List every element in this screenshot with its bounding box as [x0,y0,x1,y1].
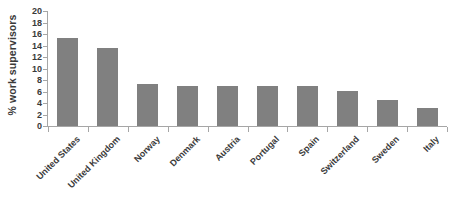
bar [97,48,118,126]
y-axis-title-label: % work supervisors [5,14,17,115]
y-axis-tick-label: 12 [32,53,42,62]
x-axis-tick-mark [208,127,209,132]
bar [377,100,398,126]
bar [217,86,238,126]
y-axis-tick-mark [43,46,47,47]
y-axis-tick-label: 10 [32,64,42,73]
x-axis-tick-mark [128,127,129,132]
y-axis-tick-mark [43,103,47,104]
bar [337,91,358,126]
y-axis-tick-label: 14 [32,41,42,50]
x-axis-category-labels: United StatesUnited KingdomNorwayDenmark… [0,128,460,215]
x-axis-tick-mark [287,127,288,132]
x-axis-line [47,126,447,127]
bar [297,86,318,126]
x-axis-tick-mark [367,127,368,132]
y-axis-tick-mark [43,80,47,81]
y-axis-tick-label: 20 [32,7,42,16]
x-axis-tick-mark [447,127,448,132]
bar [57,38,78,126]
y-axis-tick-mark [43,126,47,127]
x-axis-category-label: United States [0,134,82,215]
y-axis-tick-label: 8 [37,76,42,85]
y-axis-tick-mark [43,115,47,116]
y-axis-tick-label: 18 [32,18,42,27]
y-axis-tick-labels: 02468101214161820 [22,5,44,131]
x-axis-tick-mark [407,127,408,132]
y-axis-tick-mark [43,34,47,35]
y-axis-tick-mark [43,23,47,24]
x-axis-tick-mark [168,127,169,132]
plot-area [48,11,447,126]
y-axis-tick-mark [43,11,47,12]
y-axis-tick-label: 16 [32,30,42,39]
x-axis-tick-mark [48,127,49,132]
bar [257,86,278,126]
y-axis-tick-label: 2 [37,110,42,119]
x-axis-tick-mark [88,127,89,132]
bar [417,108,438,126]
x-axis-tick-mark [327,127,328,132]
y-axis-tick-mark [43,69,47,70]
x-axis-tick-mark [248,127,249,132]
y-axis-tick-mark [43,92,47,93]
y-axis-title: % work supervisors [0,0,22,130]
bar [137,84,158,126]
y-axis-tick-mark [43,57,47,58]
bar-chart-figure: % work supervisors 02468101214161820 Uni… [0,0,460,215]
y-axis-tick-label: 4 [37,99,42,108]
bar [177,86,198,126]
y-axis-tick-label: 6 [37,87,42,96]
